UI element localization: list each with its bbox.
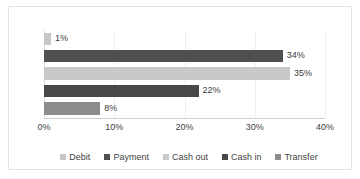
- bar-chart-figure: 1%34%35%22%8% 0% 10% 20% 30% 40% Debit P…: [0, 0, 360, 179]
- legend-swatch-cash-out: [163, 154, 169, 160]
- legend-label-debit: Debit: [69, 151, 90, 163]
- bar-row: 1%: [44, 31, 325, 48]
- legend-item-transfer[interactable]: Transfer: [275, 151, 317, 163]
- legend-swatch-transfer: [275, 154, 281, 160]
- x-tick-label-2: 20%: [175, 121, 193, 134]
- x-tick-label-1: 10%: [105, 121, 123, 134]
- legend-item-cash-in[interactable]: Cash in: [222, 151, 262, 163]
- x-tick-label-0: 0%: [37, 121, 50, 134]
- chart-frame: 1%34%35%22%8% 0% 10% 20% 30% 40% Debit P…: [8, 6, 352, 170]
- bar-row: 35%: [44, 66, 325, 83]
- legend-swatch-payment: [104, 154, 110, 160]
- bar-debit[interactable]: [44, 33, 51, 46]
- legend-label-payment: Payment: [113, 151, 149, 163]
- x-tick-label-4: 40%: [316, 121, 334, 134]
- bar-cash-in[interactable]: [44, 85, 199, 98]
- legend-swatch-debit: [60, 154, 66, 160]
- bar-value-label-transfer: 8%: [104, 101, 117, 116]
- bar-value-label-payment: 34%: [287, 48, 305, 63]
- legend-label-transfer: Transfer: [284, 151, 317, 163]
- legend-item-payment[interactable]: Payment: [104, 151, 149, 163]
- legend-item-debit[interactable]: Debit: [60, 151, 90, 163]
- legend-label-cash-in: Cash in: [231, 151, 262, 163]
- x-axis-line: [44, 118, 325, 119]
- x-axis-tick-labels: 0% 10% 20% 30% 40%: [44, 121, 325, 137]
- bar-value-label-debit: 1%: [55, 31, 68, 46]
- bar-cash-out[interactable]: [44, 67, 290, 80]
- legend-label-cash-out: Cash out: [172, 151, 208, 163]
- legend-swatch-cash-in: [222, 154, 228, 160]
- plot-area: 1%34%35%22%8%: [44, 31, 325, 118]
- x-tick-label-3: 30%: [246, 121, 264, 134]
- bar-value-label-cash-in: 22%: [203, 83, 221, 98]
- bar-payment[interactable]: [44, 50, 283, 63]
- bar-series: 1%34%35%22%8%: [44, 31, 325, 118]
- bar-row: 8%: [44, 101, 325, 118]
- bar-row: 34%: [44, 48, 325, 65]
- gridline-4: [325, 31, 326, 118]
- chart-legend: Debit Payment Cash out Cash in Transfer: [17, 149, 360, 165]
- bar-transfer[interactable]: [44, 102, 100, 115]
- legend-item-cash-out[interactable]: Cash out: [163, 151, 208, 163]
- bar-value-label-cash-out: 35%: [294, 66, 312, 81]
- bar-row: 22%: [44, 83, 325, 100]
